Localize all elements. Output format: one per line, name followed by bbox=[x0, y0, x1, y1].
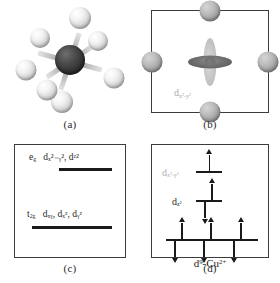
orbital-label-subscript: x²-y² bbox=[167, 171, 179, 178]
orbital-label-dx2y2: dx²-y² bbox=[174, 87, 191, 98]
panel-label-d: (d) bbox=[140, 262, 280, 274]
panel-b-orbital-square-field: dx²-y² (b) bbox=[140, 0, 280, 140]
eg-orbital-list: dₓ²₋ᵧ², dᶻ² bbox=[43, 152, 79, 162]
t2g-orbital-list: dₓᵧ, dₓᶻ, dᵧᶻ bbox=[43, 209, 83, 219]
electron-arrow-up bbox=[209, 155, 211, 172]
eg-energy-level-bar bbox=[59, 168, 112, 171]
ligand-atom bbox=[16, 60, 37, 81]
ligand-atom-top bbox=[200, 1, 221, 22]
eg-level-caption: eg dₓ²₋ᵧ², dᶻ² bbox=[29, 151, 79, 162]
panel-a-molecular-model: (a) bbox=[0, 0, 140, 140]
orbital-label-dz2: dz² bbox=[172, 196, 182, 207]
central-metal-atom bbox=[55, 45, 85, 75]
orbital-label-dx2y2: dx²-y² bbox=[162, 167, 179, 178]
figure-container: (a) dx²-y² (b) eg dₓ²₋ᵧ², dᶻ² bbox=[0, 0, 280, 283]
panel-d-frame: dx²-y² dz² d9-Cu2+ bbox=[151, 144, 269, 258]
dz2-orbital-line bbox=[196, 200, 222, 202]
panel-label-a: (a) bbox=[0, 118, 140, 130]
panel-label-c: (c) bbox=[0, 262, 140, 274]
ligand-atom bbox=[104, 68, 125, 89]
orbital-label-subscript: x²-y² bbox=[179, 92, 191, 99]
electron-arrow-down bbox=[174, 240, 176, 257]
ligand-atom bbox=[37, 80, 58, 101]
panel-d-electron-configuration: dx²-y² dz² d9-Cu2+ (d) bbox=[140, 140, 280, 283]
ligand-atom bbox=[30, 28, 50, 48]
panel-label-b: (b) bbox=[140, 118, 280, 130]
panel-b-frame: dx²-y² bbox=[151, 10, 269, 113]
panel-c-frame: eg dₓ²₋ᵧ², dᶻ² t2g dₓᵧ, dₓᶻ, dᵧᶻ bbox=[14, 144, 126, 258]
ligand-atom bbox=[69, 7, 91, 29]
electron-arrow-up bbox=[240, 223, 242, 240]
electron-arrow-down bbox=[203, 240, 205, 257]
electron-arrow-down bbox=[233, 240, 235, 257]
electron-arrow-up bbox=[210, 223, 212, 240]
ligand-atom bbox=[88, 31, 108, 51]
octahedral-model-stage bbox=[18, 8, 122, 112]
ligand-atom-left bbox=[142, 51, 163, 72]
electron-arrow-up bbox=[181, 223, 183, 240]
dx2y2-orbital bbox=[184, 36, 236, 88]
electron-arrow-up bbox=[211, 184, 213, 201]
orbital-label-subscript: z² bbox=[177, 200, 182, 207]
t2g-symmetry-subscript: 2g bbox=[30, 213, 36, 219]
electron-arrow-down bbox=[204, 201, 206, 218]
orbital-core bbox=[205, 56, 216, 67]
eg-symmetry-subscript: g bbox=[33, 156, 36, 162]
t2g-orbital-line bbox=[166, 239, 258, 241]
ligand-atom-right bbox=[258, 51, 279, 72]
t2g-level-caption: t2g dₓᵧ, dₓᶻ, dᵧᶻ bbox=[27, 209, 82, 219]
t2g-energy-level-bar bbox=[32, 226, 112, 229]
panel-c-energy-level-diagram: eg dₓ²₋ᵧ², dᶻ² t2g dₓᵧ, dₓᶻ, dᵧᶻ (c) bbox=[0, 140, 140, 283]
